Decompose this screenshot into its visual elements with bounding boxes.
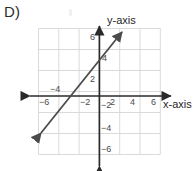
plotted-line (41, 32, 122, 133)
x-tick-label-neg2: −2 (80, 98, 90, 107)
x-tick-label-neg4: −4 (50, 85, 60, 94)
figure-container: D) (0, 0, 196, 171)
y-tick-label-neg4: −4 (101, 124, 111, 133)
y-tick-label-6: 6 (90, 33, 95, 42)
y-tick-label-neg6: −6 (101, 145, 111, 154)
x-axis-title: x-axis (163, 99, 192, 110)
y-tick-label-4: 4 (102, 54, 107, 63)
y-tick-label-2: 2 (90, 75, 95, 84)
x-tick-label-neg6: −6 (39, 98, 49, 107)
coordinate-plane (0, 0, 196, 171)
x-tick-label-4: 4 (130, 98, 135, 107)
x-tick-label-6: 6 (151, 98, 156, 107)
y-axis-title: y-axis (107, 15, 136, 26)
y-tick-label-neg2: −2 (101, 101, 111, 110)
